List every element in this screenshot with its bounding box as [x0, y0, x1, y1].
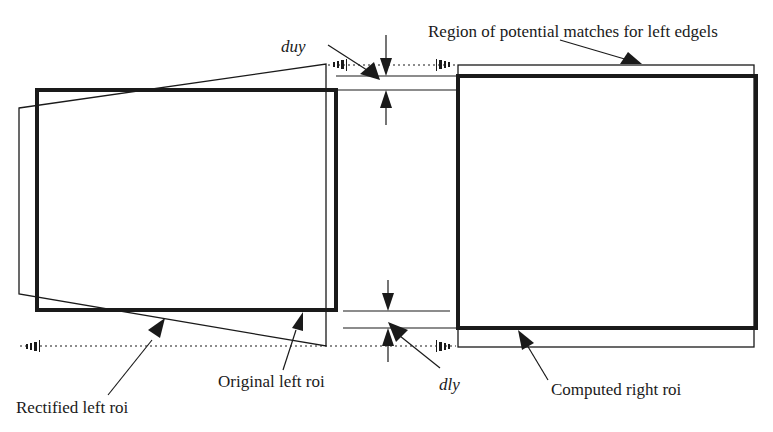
label-original-left-roi: Original left roi [218, 372, 325, 391]
label-dly: dly [439, 375, 460, 394]
region-of-potential-matches-shape [458, 65, 754, 347]
label-rectified-left-roi: Rectified left roi [16, 398, 129, 417]
leader-rectified-left-roi [108, 318, 165, 395]
leader-computed-right-roi [518, 330, 548, 380]
dly-dimension [343, 280, 458, 368]
label-duy: duy [281, 37, 306, 56]
computed-right-roi-shape [458, 76, 756, 328]
leader-region-matches [560, 40, 642, 64]
label-computed-right-roi: Computed right roi [551, 380, 682, 399]
original-left-roi-shape [37, 90, 336, 310]
stereo-roi-diagram: Region of potential matches for left edg… [0, 0, 773, 432]
duy-dimension [328, 35, 458, 125]
top-alignment-line [328, 59, 456, 71]
label-region-matches: Region of potential matches for left edg… [428, 22, 718, 41]
rectified-left-roi-shape [19, 64, 326, 346]
